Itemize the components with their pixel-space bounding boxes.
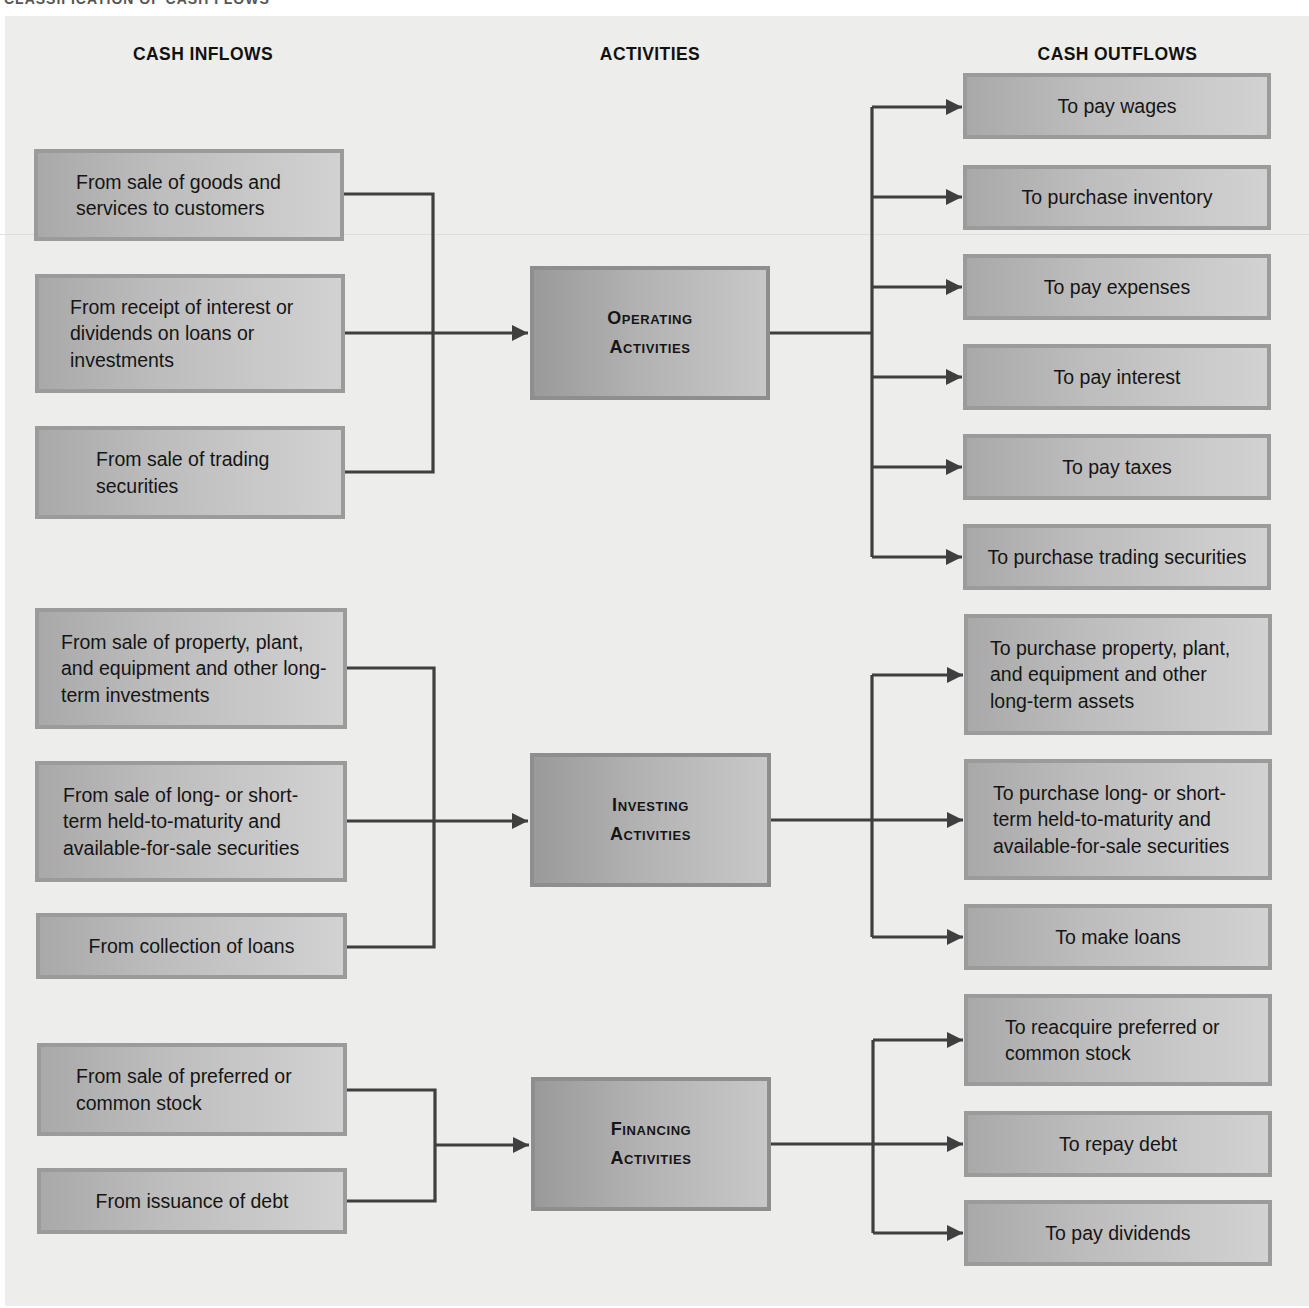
financing-inflow-connectors xyxy=(347,1090,529,1201)
operating-inflow-connectors xyxy=(344,194,528,472)
investing-inflow-connectors xyxy=(347,668,528,947)
connector-lines xyxy=(0,0,1309,1308)
investing-outflow-connectors xyxy=(771,675,963,937)
operating-outflow-connectors xyxy=(770,107,962,557)
financing-outflow-connectors xyxy=(771,1040,963,1233)
